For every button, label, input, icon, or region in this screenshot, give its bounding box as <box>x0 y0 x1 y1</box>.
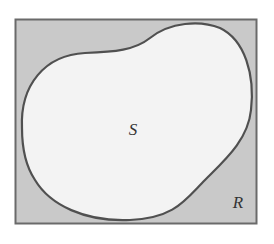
label-s: S <box>129 120 138 139</box>
label-r: R <box>232 193 244 212</box>
set-diagram: S R <box>0 0 274 244</box>
